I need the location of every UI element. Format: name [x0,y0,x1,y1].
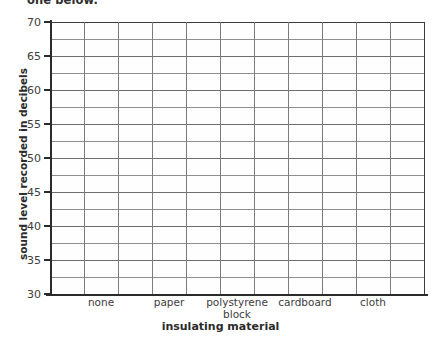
empty-grid-chart: 706560555045403530 sound level recorded … [0,0,441,340]
x-axis-tick-label-line: cloth [360,297,386,309]
x-axis-title: insulating material [0,320,441,333]
gridline-vertical [254,22,255,294]
gridline-horizontal [50,124,424,125]
gridline-vertical [390,22,391,294]
x-axis-tick-label: cloth [360,297,386,309]
gridline-horizontal [50,226,424,227]
y-axis-tick-label: 70 [0,16,41,29]
gridline-horizontal [50,107,424,108]
gridline-vertical [84,22,85,294]
gridline-horizontal [50,175,424,176]
x-axis-tick-label-line: polystyrene [206,297,268,309]
gridline-horizontal [50,260,424,261]
y-axis-line [50,20,52,296]
y-axis-tick [44,89,50,90]
y-axis-tick [44,225,50,226]
gridline-horizontal [50,56,424,57]
x-axis-tick-label: none [88,297,114,309]
x-axis-tick-label: polystyreneblock [206,297,268,320]
gridline-horizontal [50,73,424,74]
gridline-vertical [220,22,221,294]
y-axis-tick [44,293,50,294]
gridline-horizontal [50,90,424,91]
x-axis-tick-label-line: paper [154,297,185,309]
x-axis-tick-label-line: cardboard [278,297,331,309]
gridline-horizontal [50,141,424,142]
gridline-horizontal [50,192,424,193]
y-axis-tick-label: 30 [0,288,41,301]
y-axis-tick [44,191,50,192]
x-axis-tick-label-line: block [206,309,268,321]
gridline-horizontal [50,277,424,278]
gridline-vertical [186,22,187,294]
gridline-vertical [322,22,323,294]
y-axis-tick [44,21,50,22]
y-axis-tick [44,259,50,260]
gridline-horizontal [50,39,424,40]
gridline-horizontal [50,209,424,210]
gridline-vertical [118,22,119,294]
gridline-vertical [152,22,153,294]
gridline-vertical [424,22,425,294]
y-axis-title: sound level recorded in decibels [17,49,29,279]
gridline-horizontal [50,158,424,159]
gridline-horizontal [50,243,424,244]
x-axis-tick-label: cardboard [278,297,331,309]
gridline-vertical [288,22,289,294]
plot-grid [50,22,424,294]
y-axis-tick [44,55,50,56]
y-axis-tick [44,123,50,124]
x-axis-tick-label: paper [154,297,185,309]
gridline-horizontal [50,22,424,23]
y-axis-tick [44,157,50,158]
gridline-vertical [356,22,357,294]
x-axis-tick-label-line: none [88,297,114,309]
